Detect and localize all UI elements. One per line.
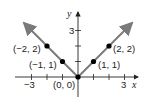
tick-label-xneg3: −3 (24, 79, 35, 90)
point-0-0 (75, 74, 80, 79)
y-axis-label: y (66, 8, 72, 19)
point-label-0-0: (0, 0) (53, 79, 75, 90)
point-2-2 (106, 43, 111, 48)
graph-absolute-value: y x 3 −3 3 (−2, 2) (−1, 1) (0, 0) (1, 1)… (0, 0, 148, 99)
point-neg2-2 (44, 43, 49, 48)
point-label-neg2-2: (−2, 2) (13, 43, 41, 54)
point-neg1-1 (60, 59, 65, 64)
point-label-neg1-1: (−1, 1) (29, 59, 57, 70)
tick-label-y3: 3 (69, 25, 74, 36)
point-label-2-2: (2, 2) (113, 43, 135, 54)
x-axis-label: x (131, 79, 137, 90)
tick-label-x3: 3 (121, 79, 126, 90)
point-1-1 (91, 59, 96, 64)
point-label-1-1: (1, 1) (98, 59, 120, 70)
